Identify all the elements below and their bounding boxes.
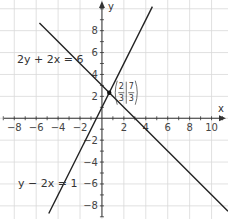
y-axis-arrow-icon — [99, 1, 105, 8]
x-tick-label: 8 — [186, 122, 192, 133]
x-tick-label: 2 — [121, 122, 127, 133]
intersection-y-numerator: 7 — [129, 82, 134, 91]
intersection-point — [107, 91, 111, 95]
intersection-label: 2 3 7 3 — [115, 81, 137, 105]
y-tick-label: 2 — [92, 91, 98, 102]
equation-label-line2: y − 2x = 1 — [18, 177, 77, 190]
y-axis-label: y — [108, 1, 114, 12]
x-tick-label: 10 — [205, 122, 218, 133]
y-tick-label: −8 — [83, 200, 98, 211]
x-tick-label: −6 — [29, 122, 44, 133]
y-tick-label: −4 — [83, 157, 98, 168]
y-tick-label: −6 — [83, 178, 98, 189]
y-tick-label: 8 — [92, 25, 98, 36]
labels: x y 2y + 2x = 6 y − 2x = 1 2 3 7 3 — [17, 1, 224, 190]
x-axis-label: x — [218, 103, 224, 114]
intersection-x-numerator: 2 — [119, 82, 124, 91]
equation-label-line1: 2y + 2x = 6 — [17, 53, 83, 66]
intersection-x-denominator: 3 — [119, 94, 124, 103]
line-chart: −8−6−4−2246810−8−6−4−22468 x y 2y + 2x =… — [0, 0, 228, 219]
x-tick-label: −2 — [73, 122, 88, 133]
right-paren — [135, 81, 137, 105]
intersection-y-denominator: 3 — [129, 94, 134, 103]
x-tick-label: 6 — [165, 122, 171, 133]
y-tick-label: 6 — [92, 47, 98, 58]
x-tick-label: −8 — [7, 122, 22, 133]
x-tick-label: −4 — [51, 122, 66, 133]
